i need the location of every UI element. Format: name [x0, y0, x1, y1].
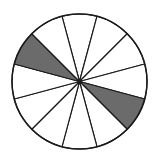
- fraction-circle-figure: [0, 0, 160, 167]
- pie-diagram: [0, 0, 160, 167]
